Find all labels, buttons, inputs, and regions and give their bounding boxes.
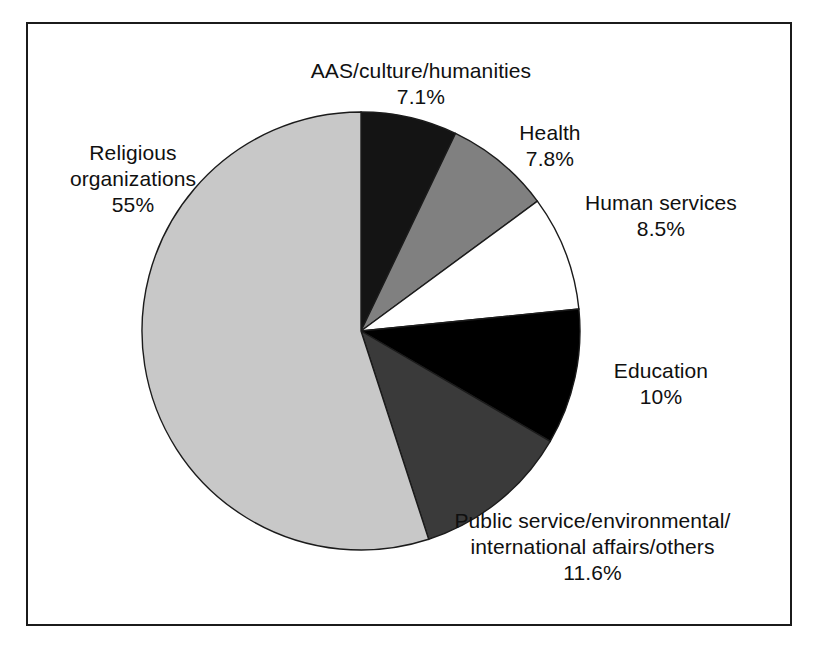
pie-label-aas-culture-humanities: AAS/culture/humanities 7.1% — [277, 58, 565, 110]
pie-label-religious-organizations: Religious organizations 55% — [38, 140, 228, 218]
pie-label-name: AAS/culture/humanities — [277, 58, 565, 84]
pie-label-health: Health 7.8% — [470, 120, 630, 172]
pie-label-value: 10% — [576, 384, 746, 410]
pie-label-public-service: Public service/environmental/ internatio… — [420, 508, 765, 586]
pie-label-value: 55% — [38, 192, 228, 218]
pie-chart-figure: AAS/culture/humanities 7.1% Health 7.8% … — [0, 0, 821, 658]
pie-label-name-line1: Public service/environmental/ — [420, 508, 765, 534]
pie-label-value: 8.5% — [556, 216, 766, 242]
pie-label-human-services: Human services 8.5% — [556, 190, 766, 242]
pie-label-name-line1: Religious — [38, 140, 228, 166]
pie-label-name: Education — [576, 358, 746, 384]
pie-label-value: 11.6% — [420, 560, 765, 586]
pie-label-value: 7.8% — [470, 146, 630, 172]
pie-label-education: Education 10% — [576, 358, 746, 410]
pie-label-value: 7.1% — [277, 84, 565, 110]
pie-label-name-line2: international affairs/others — [420, 534, 765, 560]
pie-label-name-line2: organizations — [38, 166, 228, 192]
pie-label-name: Human services — [556, 190, 766, 216]
pie-label-name: Health — [470, 120, 630, 146]
